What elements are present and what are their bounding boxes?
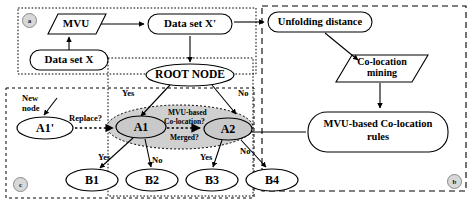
root-no-label: No — [238, 88, 248, 98]
panel-a-tag: a — [22, 13, 37, 28]
unfolding-distance-shape — [268, 12, 372, 32]
colocation-mining-shape — [336, 55, 428, 82]
data-set-x-prime-shape — [148, 14, 232, 34]
b2-shape — [126, 169, 178, 191]
panel-b-border — [262, 6, 466, 191]
root-yes-label: Yes — [122, 88, 134, 98]
root-node-shape — [146, 64, 234, 86]
edge-new-node-pointer — [44, 98, 57, 115]
new-node-label-line1: New — [22, 93, 38, 103]
b1-shape — [66, 169, 118, 191]
a1-no-label: No — [152, 155, 162, 165]
a1-shape — [116, 116, 166, 138]
a1-prime-shape — [17, 117, 73, 139]
a1-yes-label: Yes — [98, 152, 110, 162]
panel-b-tag: b — [447, 174, 462, 189]
a2-shape — [204, 118, 252, 140]
edge-unfolding-to-mining — [325, 33, 358, 60]
b4-shape — [246, 169, 298, 191]
b3-shape — [186, 169, 238, 191]
diagram-vector-layer — [0, 0, 473, 205]
merge-label-line2: Co-location? — [164, 117, 205, 126]
replace-label: Replace? — [69, 113, 102, 123]
diagram-canvas: a b c MVU Data set X Data set X' Unfoldi… — [0, 0, 473, 205]
a2-no-label: No — [240, 146, 250, 156]
merge-label-line3: Merged? — [170, 133, 199, 142]
new-node-label-line2: node — [22, 103, 39, 113]
data-set-x-shape — [30, 50, 108, 70]
panel-c-tag: c — [13, 177, 28, 192]
colocation-rules-shape — [308, 112, 448, 152]
a2-yes-label: Yes — [200, 152, 212, 162]
mvu-shape — [48, 14, 106, 34]
merge-label-line1: MVU-based — [168, 108, 207, 117]
